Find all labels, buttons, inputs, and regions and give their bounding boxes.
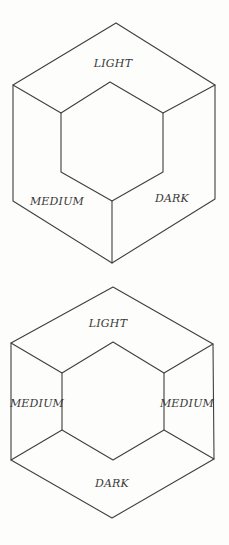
cube-lower-right-face-label: DARK — [154, 192, 190, 205]
cube-upper-left-edge-line — [13, 85, 61, 113]
cube-upper-right-edge-line — [163, 85, 215, 113]
tube-bottom-face-label: DARK — [94, 477, 130, 490]
tube-upper-left-edge-line — [11, 343, 62, 373]
figure-hexagon-tube: LIGHT MEDIUM MEDIUM DARK — [9, 287, 215, 518]
cube-lower-left-face-label: MEDIUM — [29, 195, 85, 208]
figure-page: LIGHT MEDIUM DARK LIGHT MEDIUM MEDIUM DA… — [0, 0, 229, 545]
hexagon-figures-canvas: LIGHT MEDIUM DARK LIGHT MEDIUM MEDIUM DA… — [0, 0, 229, 545]
tube-left-face-label: MEDIUM — [9, 397, 65, 410]
tube-lower-right-edge-line — [164, 430, 214, 459]
figure-hexagon-cube: LIGHT MEDIUM DARK — [13, 23, 215, 263]
tube-right-face-label: MEDIUM — [159, 397, 215, 410]
tube-upper-right-edge-line — [164, 344, 213, 373]
cube-top-face-label: LIGHT — [93, 57, 134, 70]
tube-inner-hexagon-outline — [62, 342, 164, 460]
tube-lower-left-edge-line — [11, 430, 62, 460]
tube-top-face-label: LIGHT — [88, 317, 129, 330]
cube-inner-hexagon-outline — [61, 82, 163, 201]
